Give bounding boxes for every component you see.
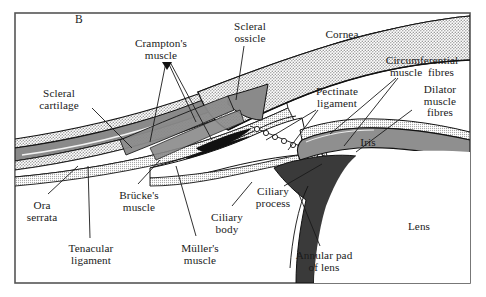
label-cramptons-muscle: Crampton's muscle [122, 38, 200, 61]
label-dilator-muscle-fibres: Dilator muscle fibres [414, 84, 466, 119]
label-scleral-cartilage: Scleral cartilage [28, 88, 90, 111]
label-cornea: Cornea [318, 29, 366, 41]
panel-label-b: B [72, 14, 86, 26]
label-bruckes-muscle: Brücke's muscle [110, 190, 168, 213]
label-iris: Iris [355, 137, 381, 149]
label-ciliary-process: Ciliary process [248, 186, 298, 209]
label-lens: Lens [402, 221, 436, 233]
label-annular-pad-of-lens: Annular pad of lens [286, 250, 362, 273]
label-scleral-ossicle: Scleral ossicle [222, 21, 278, 44]
label-ora-serrata: Ora serrata [18, 200, 66, 223]
label-tenacular-ligament: Tenacular ligament [58, 243, 124, 266]
label-ciliary-body: Ciliary body [204, 212, 250, 235]
label-pectinate-ligament: Pectinate ligament [306, 86, 368, 109]
anatomical-figure-panel-b: B Crampton's muscle Scleral ossicle Corn… [0, 0, 486, 297]
label-mullers-muscle: Müller's muscle [172, 243, 228, 266]
label-circumferential-muscle-fibres: Circumferential muscle fibres [372, 55, 472, 78]
